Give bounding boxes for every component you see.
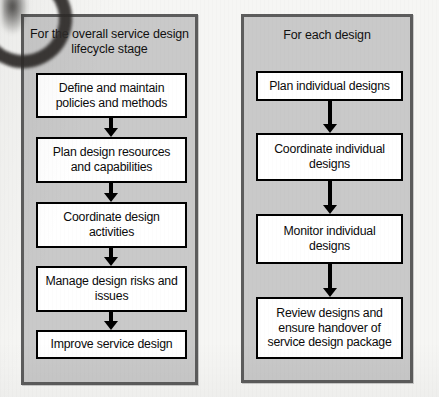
arrow-down-icon [321, 101, 339, 133]
arrow-down-icon [102, 312, 120, 330]
arrow-down-icon [102, 248, 120, 266]
node-monitor-individual-designs: Monitor individual designs [256, 214, 403, 264]
node-coordinate-individual-designs: Coordinate individual designs [256, 133, 403, 181]
panel-header-each-design: For each design [244, 28, 410, 43]
node-review-designs-handover: Review designs and ensure handover of se… [256, 297, 403, 359]
arrow-down-icon [102, 183, 120, 202]
node-define-maintain-policies: Define and maintain policies and methods [36, 73, 187, 118]
arrow-down-icon [321, 264, 339, 297]
node-improve-service-design: Improve service design [36, 330, 187, 359]
arrow-down-icon [321, 181, 339, 214]
arrow-down-icon [102, 118, 120, 137]
node-coordinate-design-activities: Coordinate design activities [36, 202, 187, 248]
node-plan-individual-designs: Plan individual designs [256, 71, 403, 101]
panel-overall-lifecycle: For the overall service design lifecycle… [21, 14, 198, 385]
panel-each-design: For each design Plan individual designs … [241, 14, 413, 383]
node-plan-design-resources: Plan design resources and capabilities [36, 137, 187, 183]
node-manage-design-risks: Manage design risks and issues [36, 266, 187, 312]
scan-binding-shadow [2, 0, 28, 34]
